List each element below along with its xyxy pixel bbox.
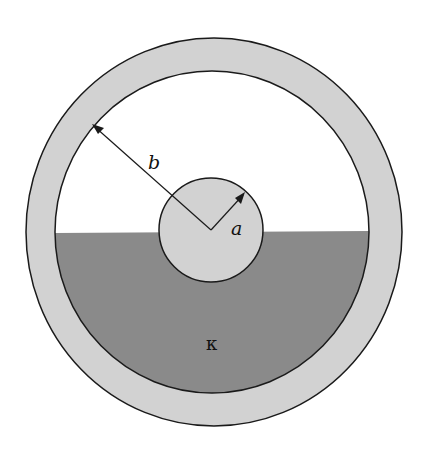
label-b: b [148,151,160,173]
label-a: a [231,217,242,239]
label-kappa: κ [206,333,218,354]
coaxial-capacitor-diagram: b a κ [0,0,422,452]
